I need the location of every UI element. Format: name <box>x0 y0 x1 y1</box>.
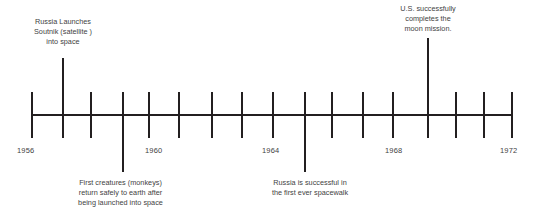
event-stem-spacewalk <box>304 92 306 172</box>
tick-1971 <box>483 92 485 138</box>
year-label-1972: 1972 <box>500 146 518 155</box>
year-label-1968: 1968 <box>385 146 403 155</box>
tick-1970 <box>455 92 457 138</box>
tick-1962 <box>211 92 213 138</box>
tick-1963 <box>241 92 243 138</box>
tick-1956 <box>31 92 33 138</box>
year-label-1964: 1964 <box>262 146 280 155</box>
year-label-1956: 1956 <box>17 146 35 155</box>
event-stem-moon-mission <box>427 38 429 138</box>
event-caption-moon-mission: U.S. successfully completes the moon mis… <box>383 4 473 35</box>
tick-1958 <box>90 92 92 138</box>
tick-1968 <box>392 92 394 138</box>
event-caption-monkeys: First creatures (monkeys) return safely … <box>58 178 183 209</box>
event-stem-sputnik <box>62 58 64 138</box>
tick-1966 <box>331 92 333 138</box>
tick-1972 <box>511 92 513 138</box>
event-caption-sputnik: Russia Launches Soutnik (satellite ) int… <box>13 17 113 48</box>
tick-1964 <box>272 92 274 138</box>
timeline-figure: 1956 1960 1964 1968 1972 Russia Launches… <box>0 0 540 223</box>
year-label-1960: 1960 <box>145 146 163 155</box>
tick-1967 <box>362 92 364 138</box>
event-caption-spacewalk: Russia is successful in the first ever s… <box>255 178 365 198</box>
event-stem-monkeys <box>122 92 124 172</box>
tick-1961 <box>178 92 180 138</box>
tick-1960 <box>148 92 150 138</box>
